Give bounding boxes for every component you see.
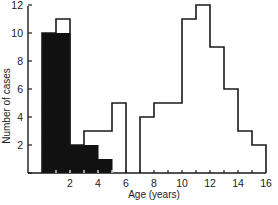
x-tick-label: 2 [67, 177, 73, 189]
x-tick-label: 8 [151, 177, 157, 189]
x-tick-label: 10 [176, 177, 188, 189]
filled-bar [84, 145, 99, 173]
y-tick-label: 10 [11, 27, 23, 39]
y-tick-label: 6 [17, 83, 23, 95]
x-tick-label: 16 [260, 177, 272, 189]
filled-bar [70, 145, 85, 173]
x-tick-label: 6 [123, 177, 129, 189]
filled-bars [42, 33, 113, 173]
y-tick-label: 8 [17, 55, 23, 67]
filled-bar [56, 33, 71, 173]
histogram-chart: 24681012246810121416 Age (years) Number … [0, 0, 278, 205]
x-tick-label: 4 [95, 177, 101, 189]
filled-bar [42, 33, 57, 173]
y-tick-label: 4 [17, 111, 23, 123]
y-tick-label: 12 [11, 0, 23, 11]
x-tick-label: 14 [232, 177, 244, 189]
y-tick-label: 2 [17, 139, 23, 151]
x-tick-label: 12 [204, 177, 216, 189]
x-axis-label: Age (years) [128, 189, 180, 200]
filled-bar [98, 159, 113, 173]
y-axis-label: Number of cases [1, 68, 12, 144]
